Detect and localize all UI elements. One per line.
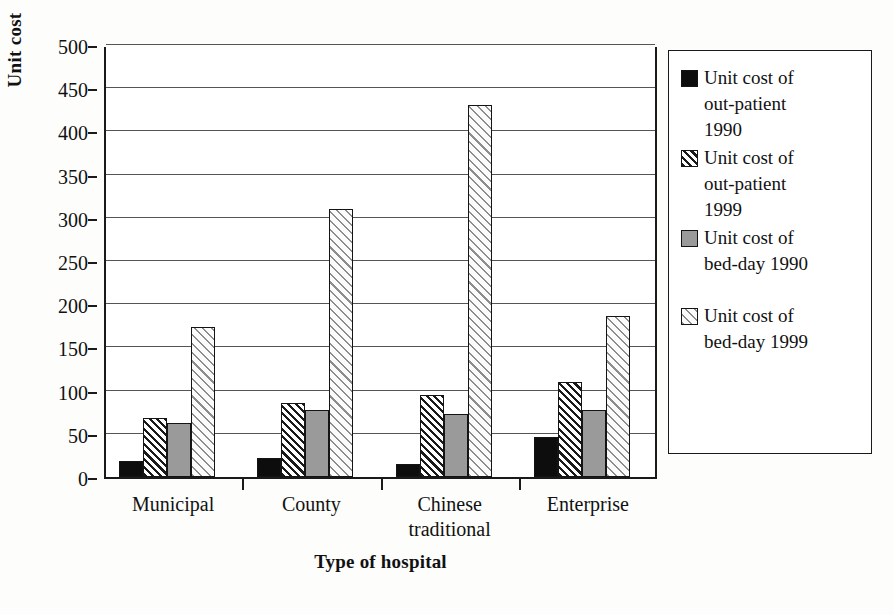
gridline [106, 44, 655, 45]
bar-group [521, 47, 659, 477]
bar [191, 327, 215, 477]
bar [444, 414, 468, 477]
x-axis-category: Municipal [104, 492, 242, 517]
legend-item: Unit cost ofout-patient1990 [681, 65, 871, 143]
y-axis-tick-label: 150 [58, 339, 88, 359]
bar [420, 395, 444, 477]
x-axis-category: Chinesetraditional [381, 492, 519, 542]
bar-group [383, 47, 521, 477]
x-axis-category: Enterprise [519, 492, 657, 517]
legend-swatch-icon [681, 308, 698, 325]
y-axis-labels: 050100150200250300350400450500 [44, 47, 96, 479]
legend-item: Unit cost ofbed-day 1990 [681, 225, 871, 277]
bar [167, 423, 191, 477]
bar [468, 105, 492, 477]
y-axis-title: Unit cost [4, 0, 26, 150]
bar [558, 382, 582, 477]
y-axis-tick-label: 300 [58, 210, 88, 230]
bar-groups [106, 47, 655, 477]
bar [143, 418, 167, 477]
x-axis-tick-label: Enterprise [519, 492, 657, 517]
legend-item: Unit cost ofbed-day 1999 [681, 303, 871, 355]
legend-swatch-icon [681, 230, 698, 247]
x-axis-title: Type of hospital [104, 551, 657, 573]
x-axis-labels: MunicipalCountyChinesetraditionalEnterpr… [104, 492, 657, 548]
bar [534, 437, 558, 477]
x-axis-tick [242, 479, 244, 490]
y-axis-tick-label: 400 [58, 123, 88, 143]
legend-swatch-icon [681, 150, 698, 167]
legend-label: Unit cost ofbed-day 1990 [704, 225, 808, 277]
legend: Unit cost ofout-patient1990Unit cost ofo… [668, 50, 872, 454]
bar-group [244, 47, 382, 477]
bar [281, 403, 305, 477]
x-axis-tick [519, 479, 521, 490]
y-axis-tick-label: 350 [58, 167, 88, 187]
x-axis-ticks [104, 479, 657, 491]
legend-label: Unit cost ofout-patient1999 [704, 145, 794, 223]
x-axis-tick-label: traditional [381, 517, 519, 542]
legend-item: Unit cost ofout-patient1999 [681, 145, 871, 223]
bar-group [106, 47, 244, 477]
x-axis-tick-label: Municipal [104, 492, 242, 517]
bar [119, 461, 143, 477]
y-axis-tick-label: 0 [78, 469, 88, 489]
x-axis-tick [381, 479, 383, 490]
legend-swatch-icon [681, 70, 698, 87]
x-axis-category: County [242, 492, 380, 517]
bar [329, 209, 353, 477]
bar [396, 464, 420, 477]
bar [257, 458, 281, 477]
y-axis-tick-label: 50 [68, 426, 88, 446]
x-axis-tick-label: County [242, 492, 380, 517]
bar [305, 410, 329, 477]
y-axis-tick-label: 250 [58, 253, 88, 273]
bar [582, 410, 606, 477]
legend-label: Unit cost ofbed-day 1999 [704, 303, 808, 355]
y-axis-tick-label: 450 [58, 80, 88, 100]
x-axis-tick-label: Chinese [381, 492, 519, 517]
plot-area [104, 47, 657, 479]
y-axis-tick-label: 500 [58, 37, 88, 57]
y-axis-tick-label: 200 [58, 296, 88, 316]
y-axis-tick-label: 100 [58, 383, 88, 403]
legend-label: Unit cost ofout-patient1990 [704, 65, 794, 143]
bar-chart: Unit cost 050100150200250300350400450500… [0, 0, 894, 615]
bar [606, 316, 630, 477]
